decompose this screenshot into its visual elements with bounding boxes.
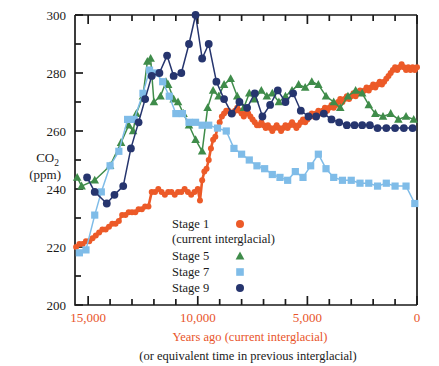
- data-point-marker: [83, 174, 91, 182]
- data-point-marker: [119, 182, 127, 190]
- data-point-marker: [322, 165, 329, 172]
- y-tick-label: 280: [47, 66, 67, 81]
- data-point-marker: [192, 11, 200, 19]
- data-point-marker: [299, 174, 306, 181]
- data-point-marker: [315, 151, 322, 158]
- data-point-marker: [156, 69, 164, 77]
- legend-sublabel: (current interglacial): [172, 232, 275, 246]
- data-point-marker: [335, 118, 343, 126]
- legend-label-stage-1[interactable]: Stage 1: [172, 217, 209, 231]
- data-point-marker: [409, 124, 417, 132]
- data-point-marker: [320, 110, 328, 118]
- data-point-marker: [195, 186, 201, 192]
- data-point-marker: [246, 156, 253, 163]
- y-tick-label: 260: [47, 124, 67, 139]
- x-tick-label: 0: [414, 310, 421, 325]
- x-axis-title: Years ago (current interglacial): [172, 330, 327, 344]
- data-point-marker: [382, 124, 390, 132]
- x-tick-label: 15,000: [70, 310, 106, 325]
- data-point-marker: [212, 134, 218, 140]
- data-point-marker: [274, 87, 282, 95]
- data-point-marker: [166, 93, 173, 100]
- y-tick-label: 240: [47, 182, 67, 197]
- data-point-marker: [192, 119, 199, 126]
- legend-marker-square: [236, 268, 244, 276]
- data-point-marker: [282, 98, 290, 106]
- data-point-marker: [348, 177, 355, 184]
- data-point-marker: [172, 110, 179, 117]
- data-point-marker: [170, 72, 178, 80]
- data-point-marker: [284, 177, 291, 184]
- data-point-marker: [91, 188, 99, 196]
- y-tick-label: 220: [47, 240, 67, 255]
- data-point-marker: [145, 203, 151, 209]
- data-point-marker: [103, 200, 111, 208]
- data-point-marker: [391, 183, 398, 190]
- data-point-marker: [98, 188, 105, 195]
- data-point-marker: [365, 180, 372, 187]
- chart-canvas: 20022024026028030005,00010,00015,000 CO2…: [0, 0, 439, 366]
- data-point-marker: [339, 177, 346, 184]
- data-point-marker: [204, 166, 210, 172]
- data-point-marker: [243, 104, 251, 112]
- data-point-marker: [261, 165, 268, 172]
- data-point-marker: [266, 101, 274, 109]
- data-point-marker: [356, 180, 363, 187]
- data-point-marker: [374, 183, 381, 190]
- data-point-marker: [135, 118, 143, 126]
- data-point-marker: [343, 121, 351, 129]
- data-point-marker: [205, 122, 212, 129]
- legend-label-stage-7[interactable]: Stage 7: [172, 265, 209, 279]
- legend-label-stage-5[interactable]: Stage 5: [172, 249, 209, 263]
- data-point-marker: [253, 162, 260, 169]
- data-point-marker: [259, 113, 267, 121]
- data-point-marker: [185, 119, 192, 126]
- data-point-marker: [208, 145, 214, 151]
- y-tick-label: 300: [47, 8, 67, 23]
- x-tick-label: 10,000: [180, 310, 216, 325]
- data-point-marker: [197, 198, 203, 204]
- data-point-marker: [199, 122, 206, 129]
- data-point-marker: [217, 119, 223, 125]
- data-point-marker: [238, 151, 245, 158]
- data-point-marker: [411, 200, 418, 207]
- data-point-marker: [383, 180, 390, 187]
- data-point-marker: [328, 116, 336, 124]
- data-point-marker: [106, 162, 113, 169]
- data-point-marker: [374, 124, 382, 132]
- data-point-marker: [307, 162, 314, 169]
- y-tick-label: 200: [47, 298, 67, 313]
- x-axis-subtitle: (or equivalent time in previous intergla…: [139, 349, 356, 363]
- data-point-marker: [82, 246, 89, 253]
- data-point-marker: [91, 212, 98, 219]
- data-point-marker: [251, 89, 259, 97]
- data-point-marker: [414, 64, 420, 70]
- data-point-marker: [312, 113, 320, 121]
- data-point-marker: [366, 121, 374, 129]
- data-point-marker: [358, 121, 366, 129]
- data-point-marker: [292, 168, 299, 175]
- data-point-marker: [116, 218, 122, 224]
- data-point-marker: [269, 171, 276, 178]
- data-point-marker: [223, 127, 230, 134]
- data-point-marker: [205, 40, 213, 48]
- data-point-marker: [163, 52, 171, 60]
- data-point-marker: [141, 95, 149, 103]
- data-point-marker: [220, 95, 228, 103]
- data-point-marker: [228, 110, 236, 118]
- data-point-marker: [76, 249, 83, 256]
- data-point-marker: [276, 174, 283, 181]
- x-tick-label: 5,000: [293, 310, 322, 325]
- legend-label-stage-9[interactable]: Stage 9: [172, 281, 209, 295]
- data-point-marker: [289, 89, 297, 97]
- data-point-marker: [305, 113, 313, 121]
- data-point-marker: [230, 145, 237, 152]
- data-point-marker: [199, 177, 205, 183]
- data-point-marker: [177, 69, 185, 77]
- data-point-marker: [124, 116, 131, 123]
- data-point-marker: [213, 78, 221, 86]
- legend-marker-circle: [236, 220, 244, 228]
- data-point-marker: [214, 125, 221, 132]
- data-point-marker: [127, 145, 135, 153]
- data-point-marker: [391, 124, 399, 132]
